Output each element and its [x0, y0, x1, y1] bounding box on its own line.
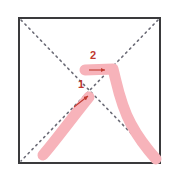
- stroke-order-diagram-stage: 1 2: [0, 0, 177, 174]
- stroke-order-svg: 1 2: [0, 0, 177, 174]
- stroke-1-number-label: 1: [78, 78, 84, 90]
- stroke-2-number-label: 2: [90, 49, 96, 61]
